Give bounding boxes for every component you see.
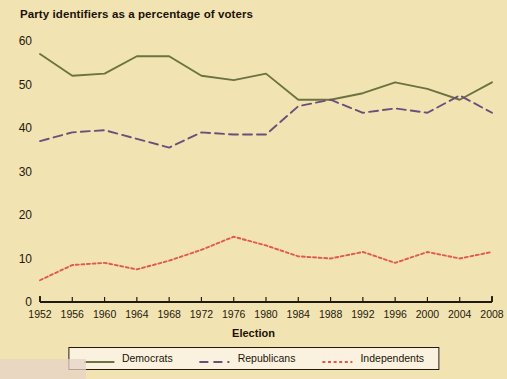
- chart-legend: Democrats Republicans Independents: [68, 347, 439, 370]
- chart-figure: Party identifiers as a percentage of vot…: [0, 0, 507, 379]
- line-chart-plot: 0102030405060 19521956196019641968197219…: [0, 0, 507, 379]
- legend-label-independents: Independents: [360, 352, 424, 364]
- y-axis-tick-group: 0102030405060: [19, 34, 33, 309]
- x-tick-label: 1996: [383, 308, 407, 320]
- page-corner-artifact: [0, 359, 86, 379]
- x-tick-label: 1988: [319, 308, 343, 320]
- x-axis-title: Election: [0, 327, 507, 339]
- y-tick-label: 30: [19, 165, 33, 179]
- data-series-group: [40, 54, 492, 280]
- y-tick-label: 60: [19, 34, 33, 48]
- legend-swatch-democrats: [83, 353, 115, 363]
- x-tick-label: 1976: [222, 308, 246, 320]
- legend-label-democrats: Democrats: [122, 352, 173, 364]
- y-tick-label: 20: [19, 208, 33, 222]
- legend-item-republicans: Republicans: [199, 352, 296, 364]
- y-tick-label: 50: [19, 78, 33, 92]
- x-tick-label: 1964: [125, 308, 149, 320]
- x-tick-label: 1984: [287, 308, 311, 320]
- series-line-independents: [40, 237, 492, 281]
- x-axis-tick-group: 1952195619601964196819721976198019841988…: [28, 297, 504, 320]
- legend-label-republicans: Republicans: [238, 352, 296, 364]
- legend-item-independents: Independents: [321, 352, 424, 364]
- x-tick-label: 1992: [351, 308, 375, 320]
- x-tick-label: 2000: [416, 308, 440, 320]
- x-tick-label: 1960: [93, 308, 117, 320]
- series-line-republicans: [40, 95, 492, 147]
- series-line-democrats: [40, 54, 492, 100]
- legend-item-democrats: Democrats: [83, 352, 173, 364]
- x-tick-label: 1956: [61, 308, 85, 320]
- legend-swatch-republicans: [199, 353, 231, 363]
- y-tick-label: 10: [19, 252, 33, 266]
- y-tick-label: 40: [19, 121, 33, 135]
- x-tick-label: 1972: [190, 308, 214, 320]
- x-tick-label: 2004: [448, 308, 472, 320]
- x-tick-label: 1968: [157, 308, 181, 320]
- x-tick-label: 1952: [28, 308, 52, 320]
- x-tick-label: 2008: [480, 308, 504, 320]
- legend-swatch-independents: [321, 353, 353, 363]
- y-tick-label: 0: [25, 295, 32, 309]
- x-tick-label: 1980: [254, 308, 278, 320]
